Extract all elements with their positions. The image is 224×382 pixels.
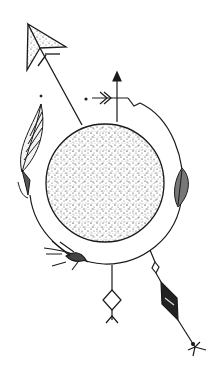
right-feather <box>175 168 189 207</box>
diamond-arrow-pendant <box>150 250 206 356</box>
diamond-rune-pendant <box>103 265 121 323</box>
illustration-canvas <box>0 0 224 382</box>
paper-plane-arrow <box>27 24 82 125</box>
stippled-sphere <box>46 124 164 242</box>
left-feather <box>18 95 43 198</box>
up-arrow <box>85 72 140 122</box>
moon-arrows-drawing <box>0 0 224 382</box>
wheat-sprig <box>44 241 88 270</box>
